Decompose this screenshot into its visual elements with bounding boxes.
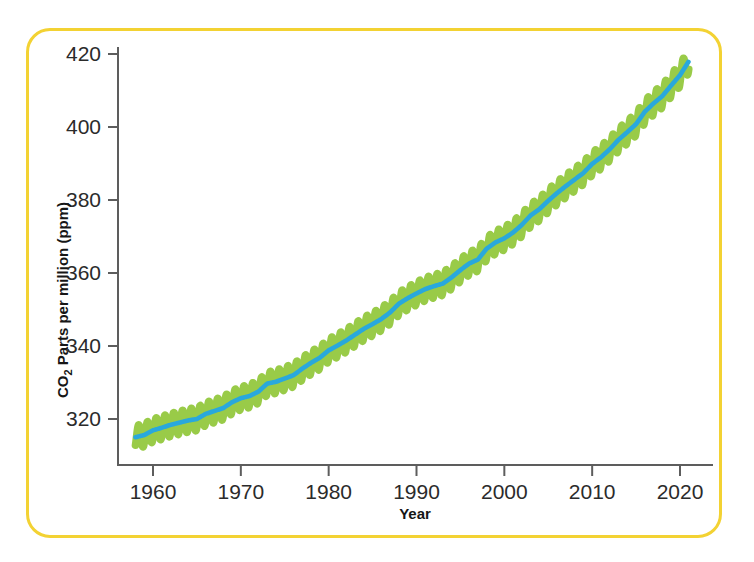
y-tick-label: 400 — [66, 115, 101, 138]
x-tick-label: 2020 — [657, 480, 704, 503]
y-tick-label: 360 — [66, 261, 101, 284]
x-tick-label: 1990 — [393, 480, 440, 503]
x-tick-label: 1980 — [305, 480, 352, 503]
x-tick-label: 2010 — [569, 480, 616, 503]
x-tick-label: 2000 — [481, 480, 528, 503]
chart-plot-area: 320340360380400420 196019701980199020002… — [0, 0, 754, 562]
y-tick-label: 340 — [66, 334, 101, 357]
x-axis-ticks: 1960197019801990200020102020 — [130, 465, 704, 503]
seasonal-oscillation-path — [135, 58, 688, 447]
y-tick-label: 380 — [66, 188, 101, 211]
series-smoothed-trend — [135, 62, 688, 437]
svg-text:CO2 Parts per million (ppm): CO2 Parts per million (ppm) — [54, 202, 74, 398]
x-axis-title: Year — [399, 505, 431, 522]
y-axis-title: CO2 Parts per million (ppm) — [54, 202, 74, 398]
y-axis-title-prefix: CO — [54, 375, 71, 398]
y-axis-title-main: Parts per million (ppm) — [54, 202, 71, 370]
co2-keeling-curve-figure: 320340360380400420 196019701980199020002… — [0, 0, 754, 562]
y-tick-label: 320 — [66, 407, 101, 430]
x-tick-label: 1960 — [130, 480, 177, 503]
x-tick-label: 1970 — [217, 480, 264, 503]
series-seasonal-oscillation — [135, 58, 688, 447]
y-tick-label: 420 — [66, 42, 101, 65]
